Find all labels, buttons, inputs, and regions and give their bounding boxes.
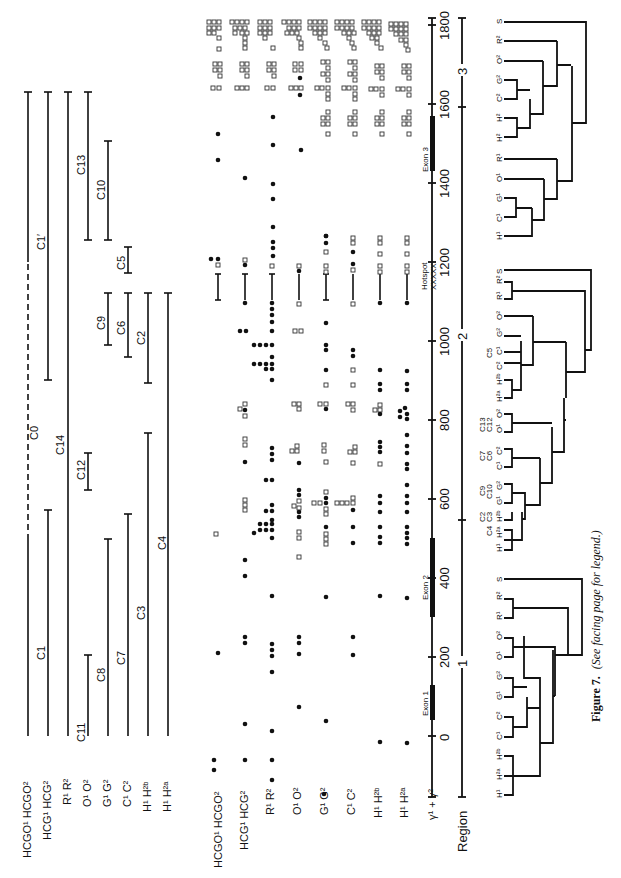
segments-panel: C0 C1 C1′ C14 C11 C12 C13 C8 C9 <box>21 92 173 858</box>
svg-text:C²: C² <box>495 711 504 720</box>
tick-800: 800 <box>437 409 452 431</box>
segment-label-C1: C1 <box>35 646 47 660</box>
region3-filled-dots <box>216 76 356 259</box>
dots-row-label-r: R¹ R² <box>264 788 276 815</box>
dendrogram-region-3: H¹ C¹ G¹ O¹ R¹ H² H² C² G² O² R² S <box>495 19 586 240</box>
segment-label-C11: C11 <box>75 723 87 742</box>
region-3-label: 3 <box>455 68 470 75</box>
svg-text:G²: G² <box>495 481 504 490</box>
svg-text:G¹: G¹ <box>495 193 504 202</box>
svg-text:C¹: C¹ <box>495 346 504 355</box>
position-axis: Exon 1 Exon 2 Exon 3 Hotspot XXXXX 0 200… <box>420 11 452 797</box>
region-axis-label: Region <box>455 811 470 852</box>
svg-text:S: S <box>495 577 504 582</box>
dots-row-label-o: O¹ O² <box>291 787 303 815</box>
row-label-o: O¹ O² <box>81 779 93 807</box>
svg-text:O¹: O¹ <box>495 173 504 182</box>
svg-text:H¹: H¹ <box>495 789 504 798</box>
dendrogram-region-2: H¹ H²ᵃ H²ᵇ G¹ G² C¹ C² O¹ O² H²ᵃ H²ᵇ C² … <box>478 269 591 552</box>
svg-text:R¹: R¹ <box>495 291 504 300</box>
svg-text:O²: O² <box>495 55 504 64</box>
segment-label-C5: C5 <box>115 256 127 270</box>
svg-text:R²: R² <box>495 591 504 600</box>
svg-text:R¹: R¹ <box>495 611 504 620</box>
svg-text:Figure 7. (See facing pa: Figure 7. (See facing page for legend.) <box>589 530 603 722</box>
svg-text:O²: O² <box>495 631 504 640</box>
exon-3-block <box>430 116 435 171</box>
svg-text:S: S <box>495 269 504 274</box>
region2-dots <box>214 321 409 601</box>
svg-text:C6: C6 <box>485 450 494 461</box>
segment-label-C12: C12 <box>75 460 87 480</box>
svg-text:C²: C² <box>495 361 504 370</box>
svg-text:H¹: H¹ <box>495 231 504 240</box>
row-label-hcg: HCG¹ HCG² <box>41 780 53 840</box>
svg-text:O¹: O¹ <box>495 424 504 433</box>
caption-text: (See facing page for legend.) <box>589 530 603 669</box>
tick-200: 200 <box>437 646 452 668</box>
dots-panel: HCGO¹ HCGO² HCG¹ HCG² R¹ R² O¹ O² G¹ G² … <box>207 20 438 868</box>
svg-text:R²: R² <box>495 35 504 44</box>
exon-3-label: Exon 3 <box>421 147 430 172</box>
row-label-hcgo: HCGO¹ HCGO² <box>21 781 33 858</box>
row-label-r: R¹ R² <box>61 778 73 805</box>
region-1-label: 1 <box>455 660 470 667</box>
segment-label-C13: C13 <box>75 155 87 175</box>
svg-text:H¹: H¹ <box>495 543 504 552</box>
segment-label-C1-prime: C1′ <box>35 234 47 250</box>
svg-text:C¹: C¹ <box>495 731 504 740</box>
tick-1600: 1600 <box>437 90 452 119</box>
row-label-h2b: H¹ H²ᵇ <box>141 782 153 812</box>
svg-text:H²ᵃ: H²ᵃ <box>495 768 504 780</box>
tick-400: 400 <box>437 567 452 589</box>
svg-text:C²: C² <box>495 446 504 455</box>
svg-text:H²: H² <box>495 133 504 142</box>
exon-1-label: Exon 1 <box>421 691 430 716</box>
dots-row-label-hcg: HCG¹ HCG² <box>238 790 250 850</box>
row-label-g: G¹ G² <box>101 779 113 807</box>
tick-1200: 1200 <box>437 248 452 277</box>
segment-label-C10: C10 <box>95 180 107 200</box>
figure-7: C0 C1 C1′ C14 C11 C12 C13 C8 C9 <box>0 0 621 878</box>
tick-0: 0 <box>437 734 452 741</box>
hotspot-label: Hotspot <box>420 262 429 290</box>
dendrogram-region-1: H¹ H²ᵃ H²ᵇ C¹ C² G¹ G² O¹ O² R¹ R² S <box>495 577 582 798</box>
hotspot-ranges <box>209 234 410 325</box>
svg-text:H²ᵃ: H²ᵃ <box>495 526 504 538</box>
region3-open-squares <box>207 20 410 52</box>
dots-row-label-hcgo: HCGO¹ HCGO² <box>212 791 224 868</box>
svg-text:G¹: G¹ <box>495 496 504 505</box>
dots-row-label-h2a: H¹ H²ᵃ <box>398 787 410 818</box>
segment-label-C8: C8 <box>95 668 107 682</box>
tick-1400: 1400 <box>437 169 452 198</box>
segment-label-C7: C7 <box>115 651 127 665</box>
dots-row-label-h2b: H¹ H²ᵇ <box>372 788 384 818</box>
svg-text:G¹: G¹ <box>495 691 504 700</box>
svg-text:C4: C4 <box>485 525 494 536</box>
svg-text:H²ᵇ: H²ᵇ <box>495 749 504 760</box>
dots-row-label-c: C¹ C² <box>345 788 357 815</box>
segment-label-C2: C2 <box>135 331 147 345</box>
svg-text:O¹: O¹ <box>495 651 504 660</box>
svg-text:G²: G² <box>495 328 504 337</box>
segment-label-C3: C3 <box>135 606 147 620</box>
figure-caption: Figure 7. (See facing page for legend.) <box>589 530 603 722</box>
svg-text:H²ᵇ: H²ᵇ <box>495 511 504 522</box>
row-label-c: C¹ C² <box>121 780 133 807</box>
segment-label-C4: C4 <box>156 536 168 550</box>
exon-1-block <box>430 685 435 720</box>
svg-text:G²: G² <box>495 671 504 680</box>
segment-label-C6: C6 <box>115 321 127 335</box>
svg-text:C¹: C¹ <box>495 461 504 470</box>
svg-text:C3: C3 <box>485 511 494 522</box>
row-label-h2a: H¹ H²ᵃ <box>161 781 173 812</box>
svg-text:H²ᵃ: H²ᵃ <box>495 390 504 402</box>
region1-dots <box>212 635 410 797</box>
svg-text:C¹: C¹ <box>495 213 504 222</box>
svg-text:R¹: R¹ <box>495 153 504 162</box>
svg-text:H²: H² <box>495 113 504 122</box>
svg-text:C12: C12 <box>485 417 494 432</box>
region-axis: 1 2 3 Region <box>455 18 470 852</box>
region-2-label: 2 <box>455 333 470 340</box>
svg-text:S: S <box>495 19 504 24</box>
